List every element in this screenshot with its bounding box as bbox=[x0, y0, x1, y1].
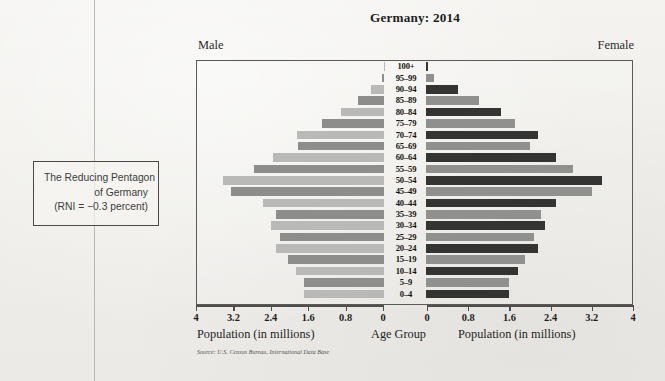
pyramid-row bbox=[197, 209, 384, 220]
source-note: Source: U.S. Census Bureau, Internationa… bbox=[197, 349, 329, 355]
age-group-label: 70–74 bbox=[396, 131, 417, 140]
age-group-label: 0–4 bbox=[400, 290, 412, 299]
axis-tick-label: 1.6 bbox=[302, 312, 315, 323]
axis-tick-label: 4 bbox=[193, 312, 198, 323]
age-group-row: 65–69 bbox=[384, 141, 428, 152]
bar-male-70–74 bbox=[297, 131, 384, 140]
bar-male-50–54 bbox=[223, 176, 384, 185]
axis-tick bbox=[271, 305, 272, 311]
right-axis-caption: Population (in millions) bbox=[458, 327, 576, 342]
bar-female-30–34 bbox=[426, 221, 545, 230]
callout-line-1: The Reducing Pentagon bbox=[44, 171, 148, 186]
bar-male-40–44 bbox=[263, 199, 384, 208]
left-axis-line bbox=[196, 305, 383, 307]
bar-female-100+ bbox=[426, 62, 428, 71]
pyramid-row bbox=[426, 254, 632, 265]
pyramid-row bbox=[197, 231, 384, 242]
bar-female-75–79 bbox=[426, 119, 515, 128]
bar-female-70–74 bbox=[426, 131, 538, 140]
pyramid-row bbox=[426, 277, 632, 288]
age-group-row: 50–54 bbox=[384, 175, 428, 186]
axis-tick bbox=[346, 305, 347, 311]
bar-male-85–89 bbox=[358, 96, 384, 105]
age-group-label: 65–69 bbox=[396, 142, 417, 151]
bar-male-15–19 bbox=[288, 255, 384, 264]
axis-tick bbox=[196, 305, 197, 311]
age-group-label: 20–24 bbox=[396, 244, 417, 253]
axis-tick bbox=[383, 305, 384, 311]
age-group-column: 100+95–9990–9485–8980–8475–7970–7465–696… bbox=[384, 61, 428, 304]
bar-female-50–54 bbox=[426, 176, 602, 185]
population-pyramid-chart: Germany: 2014 Male Female 100+95–9990–94… bbox=[196, 10, 634, 370]
age-group-label: 55–59 bbox=[396, 165, 417, 174]
callout-line-3: (RNI = −0.3 percent) bbox=[44, 200, 148, 215]
axis-tick-label: 0 bbox=[424, 312, 429, 323]
age-group-row: 0–4 bbox=[384, 288, 428, 299]
pyramid-row bbox=[426, 95, 632, 106]
axis-tick bbox=[427, 305, 428, 311]
pyramid-row bbox=[426, 61, 632, 72]
pyramid-row bbox=[197, 152, 384, 163]
age-group-row: 60–64 bbox=[384, 152, 428, 163]
pyramid-row bbox=[197, 265, 384, 276]
pyramid-row bbox=[426, 231, 632, 242]
pyramid-row bbox=[197, 118, 384, 129]
age-group-row: 70–74 bbox=[384, 129, 428, 140]
bar-male-0–4 bbox=[304, 290, 384, 299]
age-group-label: 85–89 bbox=[396, 96, 417, 105]
pyramid-row bbox=[426, 118, 632, 129]
age-group-label: 15–19 bbox=[396, 255, 417, 264]
bar-female-80–84 bbox=[426, 108, 501, 117]
axis-tick-label: 3.2 bbox=[227, 312, 240, 323]
pyramid-row bbox=[197, 197, 384, 208]
age-group-label: 100+ bbox=[397, 62, 414, 71]
axis-tick-label: 0.8 bbox=[339, 312, 352, 323]
pyramid-row bbox=[426, 106, 632, 117]
male-bars-panel bbox=[197, 61, 384, 304]
age-group-row: 75–79 bbox=[384, 118, 428, 129]
pyramid-row bbox=[197, 129, 384, 140]
age-group-label: 90–94 bbox=[396, 85, 417, 94]
age-group-label: 30–34 bbox=[396, 221, 417, 230]
axis-tick bbox=[633, 305, 634, 311]
age-group-label: 40–44 bbox=[396, 199, 417, 208]
axis-tick-label: 0 bbox=[380, 312, 385, 323]
pyramid-row bbox=[197, 163, 384, 174]
pyramid-row bbox=[426, 186, 632, 197]
axis-tick bbox=[308, 305, 309, 311]
age-group-row: 85–89 bbox=[384, 95, 428, 106]
axis-tick bbox=[509, 305, 510, 311]
axis-tick-label: 0.8 bbox=[462, 312, 475, 323]
age-group-row: 30–34 bbox=[384, 220, 428, 231]
age-group-row: 90–94 bbox=[384, 84, 428, 95]
pyramid-row bbox=[197, 95, 384, 106]
axis-tick-label: 4 bbox=[630, 312, 635, 323]
bar-female-0–4 bbox=[426, 290, 509, 299]
pyramid-row bbox=[426, 265, 632, 276]
pyramid-row bbox=[197, 72, 384, 83]
callout-box: The Reducing Pentagon of Germany (RNI = … bbox=[33, 161, 159, 226]
age-group-label: 60–64 bbox=[396, 153, 417, 162]
bar-female-65–69 bbox=[426, 142, 530, 151]
pyramid-row bbox=[197, 141, 384, 152]
pyramid-row bbox=[426, 197, 632, 208]
bar-female-15–19 bbox=[426, 255, 525, 264]
age-group-row: 25–29 bbox=[384, 231, 428, 242]
age-group-row: 5–9 bbox=[384, 277, 428, 288]
bar-male-30–34 bbox=[271, 221, 384, 230]
pyramid-row bbox=[426, 163, 632, 174]
age-group-label: 45–49 bbox=[396, 187, 417, 196]
right-axis-line bbox=[427, 305, 633, 307]
pyramid-row bbox=[426, 152, 632, 163]
center-axis-caption: Age Group bbox=[371, 327, 426, 342]
bar-male-80–84 bbox=[341, 108, 384, 117]
bar-male-65–69 bbox=[298, 142, 384, 151]
age-group-label: 95–99 bbox=[396, 74, 417, 83]
bar-male-25–29 bbox=[280, 233, 384, 242]
age-group-row: 40–44 bbox=[384, 197, 428, 208]
bar-female-20–24 bbox=[426, 244, 538, 253]
bar-male-60–64 bbox=[273, 153, 384, 162]
plot-area: 100+95–9990–9485–8980–8475–7970–7465–696… bbox=[196, 60, 633, 305]
pyramid-row bbox=[197, 61, 384, 72]
age-group-label: 25–29 bbox=[396, 233, 417, 242]
